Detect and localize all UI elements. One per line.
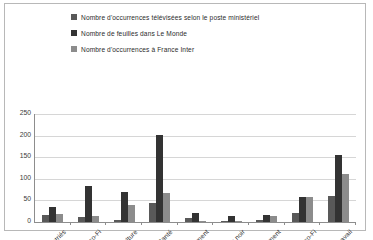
x-axis-label-cell-4: Parlement xyxy=(177,226,213,237)
bar-series-group xyxy=(35,114,356,222)
legend-label-series-3: Nombre d'occurrences à France Inter xyxy=(81,46,194,53)
x-axis-label-cell-0: Rapatriés xyxy=(34,226,70,237)
bar-group-3 xyxy=(142,114,178,222)
bar-4-series-1[interactable] xyxy=(185,218,192,222)
bar-5-series-3[interactable] xyxy=(235,221,242,222)
bar-0-series-1[interactable] xyxy=(42,215,49,222)
bar-group-6 xyxy=(249,114,285,222)
x-axis-label-cell-3: Santé xyxy=(141,226,177,237)
x-axis-label-3: Santé xyxy=(157,228,174,237)
y-axis-tick-labels: 050100150200250 xyxy=(5,112,31,224)
bar-group-2 xyxy=(106,114,142,222)
bar-group-0 xyxy=(35,114,71,222)
legend-item-series-1: Nombre d'occurrences télévisées selon le… xyxy=(71,10,259,24)
bar-7-series-3[interactable] xyxy=(306,197,313,222)
bar-8-series-2[interactable] xyxy=(335,155,342,222)
x-axis-label-0: Rapatriés xyxy=(41,228,67,237)
y-axis-tick-150: 150 xyxy=(5,152,31,159)
x-axis-label-7: Eco-Fi xyxy=(298,228,317,237)
legend-label-series-2: Nombre de feuilles dans Le Monde xyxy=(81,30,187,37)
bar-group-5 xyxy=(213,114,249,222)
bar-1-series-2[interactable] xyxy=(85,186,92,222)
x-tick-mark-6 xyxy=(284,222,285,225)
y-axis-tick-200: 200 xyxy=(5,130,31,137)
x-tick-mark-4 xyxy=(212,222,213,225)
x-axis-label-6: Parlement xyxy=(255,228,282,237)
x-axis-label-cell-5: Trou noir xyxy=(213,226,249,237)
bar-0-series-3[interactable] xyxy=(56,214,63,222)
bar-4-series-2[interactable] xyxy=(192,213,199,222)
x-axis-label-2: Agriculture xyxy=(110,228,138,237)
bar-group-1 xyxy=(71,114,107,222)
bar-1-series-1[interactable] xyxy=(78,217,85,222)
x-tick-mark-3 xyxy=(177,222,178,225)
x-tick-mark-7 xyxy=(319,222,320,225)
bar-5-series-1[interactable] xyxy=(221,221,228,222)
x-axis-label-cell-7: Eco-Fi xyxy=(284,226,320,237)
bar-2-series-2[interactable] xyxy=(121,192,128,222)
bar-6-series-3[interactable] xyxy=(270,216,277,222)
bar-8-series-1[interactable] xyxy=(328,196,335,222)
bar-4-series-3[interactable] xyxy=(199,221,206,222)
x-axis-label-8: Travail xyxy=(334,228,353,237)
y-axis-tick-0: 0 xyxy=(5,217,31,224)
x-tick-mark-5 xyxy=(248,222,249,225)
legend-label-series-1: Nombre d'occurrences télévisées selon le… xyxy=(81,14,259,21)
bar-7-series-2[interactable] xyxy=(299,197,306,222)
bar-6-series-1[interactable] xyxy=(256,220,263,222)
bar-5-series-2[interactable] xyxy=(228,216,235,222)
bar-3-series-2[interactable] xyxy=(156,135,163,222)
bar-2-series-3[interactable] xyxy=(128,205,135,222)
x-axis-label-cell-6: Parlement xyxy=(249,226,285,237)
legend-swatch-series-2 xyxy=(71,30,77,36)
x-axis-label-cell-2: Agriculture xyxy=(106,226,142,237)
x-tick-mark-1 xyxy=(105,222,106,225)
bar-group-4 xyxy=(178,114,214,222)
plot-wrapper: 050100150200250 RapatriésBudget-Eco-FiAg… xyxy=(5,56,365,232)
x-tick-mark-2 xyxy=(141,222,142,225)
bar-3-series-3[interactable] xyxy=(163,193,170,222)
x-axis-label-cell-8: Travail xyxy=(320,226,356,237)
y-axis-tick-250: 250 xyxy=(5,109,31,116)
y-axis-tick-50: 50 xyxy=(5,195,31,202)
chart-legend: Nombre d'occurrences télévisées selon le… xyxy=(5,8,365,56)
x-axis-tick-labels: RapatriésBudget-Eco-FiAgricultureSantéPa… xyxy=(34,226,356,237)
bar-3-series-1[interactable] xyxy=(149,203,156,222)
x-axis-label-4: Parlement xyxy=(183,228,210,237)
bar-6-series-2[interactable] xyxy=(263,215,270,222)
legend-item-series-3: Nombre d'occurrences à France Inter xyxy=(71,42,194,56)
x-axis-label-1: Budget-Eco-Fi xyxy=(67,228,103,237)
bar-8-series-3[interactable] xyxy=(342,174,349,222)
bar-0-series-2[interactable] xyxy=(49,207,56,222)
bar-1-series-3[interactable] xyxy=(92,216,99,222)
bar-group-8 xyxy=(320,114,356,222)
x-tick-mark-0 xyxy=(70,222,71,225)
legend-swatch-series-3 xyxy=(71,46,77,52)
legend-swatch-series-1 xyxy=(71,14,77,20)
plot-area xyxy=(34,114,356,223)
bar-2-series-1[interactable] xyxy=(114,220,121,222)
bar-7-series-1[interactable] xyxy=(292,213,299,223)
x-tick-mark-8 xyxy=(355,222,356,225)
legend-item-series-2: Nombre de feuilles dans Le Monde xyxy=(71,26,187,40)
y-axis-tick-100: 100 xyxy=(5,173,31,180)
bar-group-7 xyxy=(285,114,321,222)
x-axis-label-5: Trou noir xyxy=(222,228,246,237)
chart-container: Nombre d'occurrences télévisées selon le… xyxy=(4,3,366,231)
x-axis-label-cell-1: Budget-Eco-Fi xyxy=(70,226,106,237)
